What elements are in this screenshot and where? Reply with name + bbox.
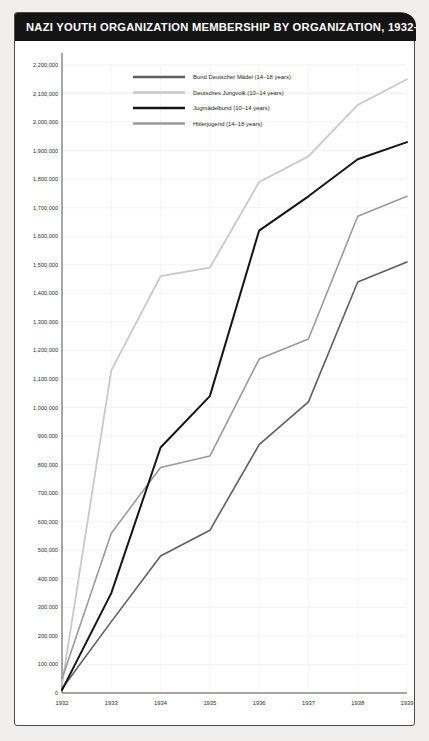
y-axis-tick-labels: 0100,000200,000300,000400,000500,000600,… — [33, 62, 58, 696]
page-title: NAZI YOUTH ORGANIZATION MEMBERSHIP BY OR… — [15, 21, 416, 33]
legend-label: Bund Deutscher Mädel (14–18 years) — [193, 74, 291, 80]
y-axis-tick-label: 800,000 — [38, 462, 58, 468]
x-axis-tick-label: 1938 — [351, 700, 364, 706]
data-series-line — [62, 79, 407, 684]
chart-legend: Bund Deutscher Mädel (14–18 years)Deutsc… — [133, 74, 291, 127]
data-series-line — [62, 262, 407, 689]
y-axis-tick-label: 1,600,000 — [33, 233, 58, 239]
legend-label: Hitlerjugend (14–18 years) — [193, 121, 262, 127]
x-axis-tick-label: 1935 — [203, 700, 216, 706]
y-axis-tick-label: 1,500,000 — [33, 262, 58, 268]
x-axis-tick-labels: 19321933193419351936193719381939 — [56, 700, 414, 706]
chart-axes — [62, 53, 407, 693]
y-axis-tick-label: 1,700,000 — [33, 205, 58, 211]
line-chart: 0100,000200,000300,000400,000500,000600,… — [15, 41, 416, 727]
y-axis-tick-label: 1,400,000 — [33, 290, 58, 296]
x-axis-tick-label: 1936 — [253, 700, 266, 706]
chart-title-bar: NAZI YOUTH ORGANIZATION MEMBERSHIP BY OR… — [15, 13, 416, 41]
y-axis-tick-label: 2,100,000 — [33, 91, 58, 97]
chart-page: NAZI YOUTH ORGANIZATION MEMBERSHIP BY OR… — [0, 0, 429, 741]
chart-card: NAZI YOUTH ORGANIZATION MEMBERSHIP BY OR… — [14, 12, 415, 726]
y-axis-tick-label: 2,200,000 — [33, 62, 58, 68]
y-axis-tick-label: 0 — [55, 690, 58, 696]
y-axis-tick-label: 100,000 — [38, 661, 58, 667]
y-axis-tick-label: 500,000 — [38, 547, 58, 553]
y-axis-tick-label: 700,000 — [38, 490, 58, 496]
data-series-group — [62, 79, 407, 690]
x-axis-tick-label: 1937 — [302, 700, 315, 706]
y-axis-tick-label: 1,100,000 — [33, 376, 58, 382]
x-axis-tick-label: 1939 — [401, 700, 414, 706]
legend-label: Deutsches Jungvolk (10–14 years) — [193, 90, 284, 96]
y-axis-tick-label: 200,000 — [38, 633, 58, 639]
y-axis-tick-label: 400,000 — [38, 576, 58, 582]
y-axis-tick-label: 1,300,000 — [33, 319, 58, 325]
y-axis-tick-label: 300,000 — [38, 604, 58, 610]
data-series-line — [62, 196, 407, 678]
x-axis-tick-label: 1934 — [154, 700, 168, 706]
x-axis-tick-label: 1933 — [105, 700, 118, 706]
y-axis-tick-label: 1,800,000 — [33, 176, 58, 182]
y-axis-tick-label: 1,200,000 — [33, 347, 58, 353]
y-axis-tick-label: 900,000 — [38, 433, 58, 439]
y-axis-tick-label: 600,000 — [38, 519, 58, 525]
chart-plot-area: 0100,000200,000300,000400,000500,000600,… — [15, 41, 416, 727]
y-axis-tick-label: 1,000,000 — [33, 405, 58, 411]
legend-label: Jugmädelbund (10–14 years) — [193, 105, 270, 111]
y-axis-tick-label: 2,000,000 — [33, 119, 58, 125]
y-axis-tick-label: 1,900,000 — [33, 148, 58, 154]
x-axis-tick-label: 1932 — [56, 700, 69, 706]
